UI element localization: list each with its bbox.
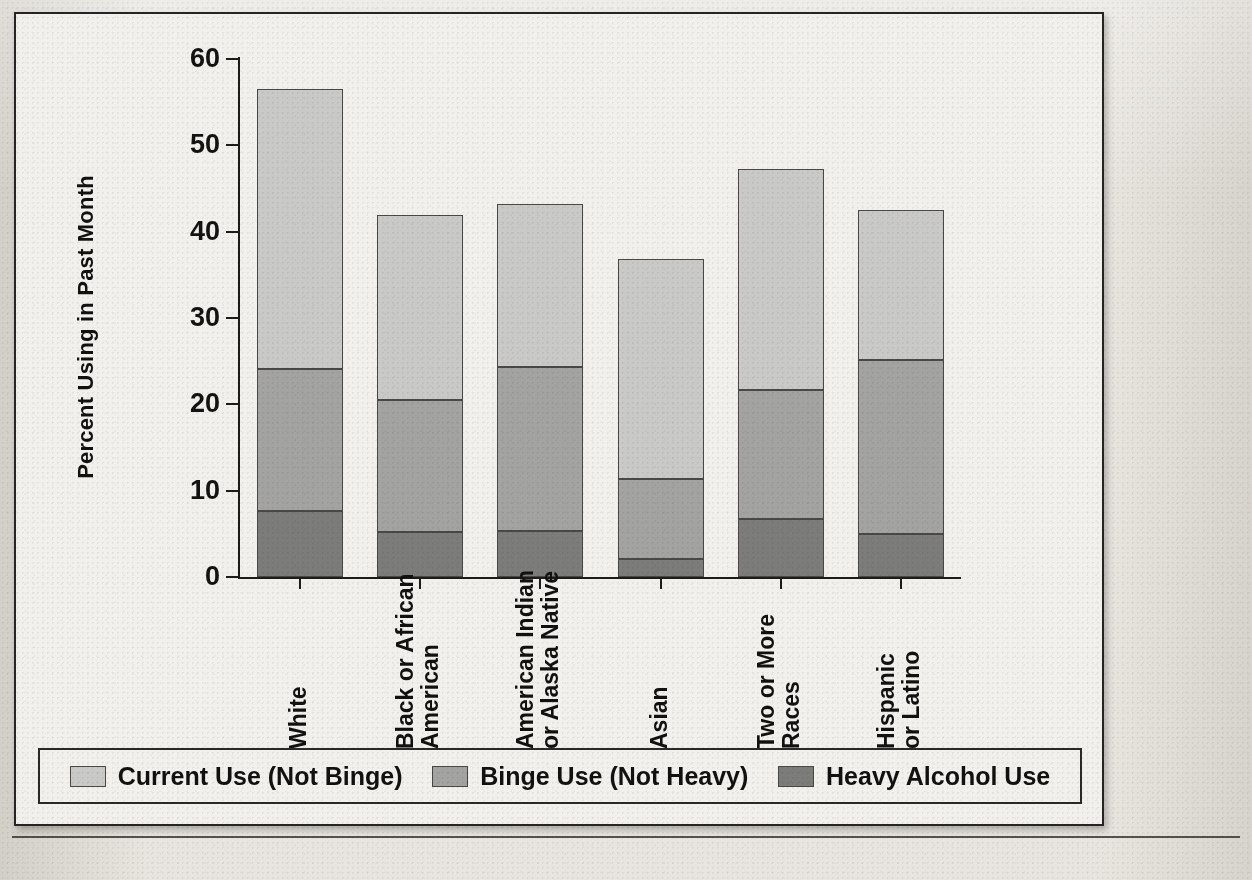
y-tick-20: [226, 403, 238, 405]
legend-swatch-heavy: [778, 766, 814, 787]
bar-segment-current: [738, 169, 824, 390]
figure-frame: 0102030405060 Percent Using in Past Mont…: [14, 12, 1104, 826]
category-label-line: American: [418, 573, 443, 749]
bar-segment-binge: [618, 479, 704, 559]
y-tick-label-10: 10: [166, 477, 220, 504]
bar-group: [738, 14, 824, 577]
category-label-line: or Alaska Native: [538, 570, 563, 749]
plot-area: 0102030405060 Percent Using in Past Mont…: [16, 14, 1102, 824]
x-tick-3: [660, 577, 662, 589]
bar-group: [257, 14, 343, 577]
legend-label: Current Use (Not Binge): [118, 762, 403, 791]
category-label: Two or MoreRaces: [754, 614, 804, 749]
category-label-line: Asian: [647, 686, 672, 749]
legend-swatch-current: [70, 766, 106, 787]
y-tick-40: [226, 231, 238, 233]
x-tick-5: [900, 577, 902, 589]
bar-segment-binge: [377, 400, 463, 532]
x-tick-4: [780, 577, 782, 589]
category-label-line: or Latino: [899, 651, 924, 749]
bar-group: [618, 14, 704, 577]
bar-segment-heavy: [738, 519, 824, 577]
y-tick-0: [226, 576, 238, 578]
y-tick-label-30: 30: [166, 304, 220, 331]
legend-item[interactable]: Binge Use (Not Heavy): [432, 762, 748, 791]
bar-segment-current: [257, 89, 343, 369]
category-label-line: American Indian: [513, 570, 538, 749]
y-tick-50: [226, 144, 238, 146]
category-label: White: [286, 686, 311, 749]
figure-inner: 0102030405060 Percent Using in Past Mont…: [16, 14, 1102, 824]
bar-segment-binge: [858, 360, 944, 534]
y-tick-label-20: 20: [166, 390, 220, 417]
bar-segment-heavy: [618, 559, 704, 577]
bar-group: [377, 14, 463, 577]
bar-segment-binge: [257, 369, 343, 511]
x-tick-0: [299, 577, 301, 589]
category-label: Hispanicor Latino: [874, 651, 924, 749]
bar-segment-binge: [738, 390, 824, 520]
category-label: Black or AfricanAmerican: [393, 573, 443, 749]
chart-legend: Current Use (Not Binge)Binge Use (Not He…: [38, 748, 1082, 804]
y-tick-10: [226, 490, 238, 492]
category-label-line: Two or More: [754, 614, 779, 749]
bar-segment-current: [618, 259, 704, 478]
legend-item[interactable]: Heavy Alcohol Use: [778, 762, 1050, 791]
y-axis-line: [238, 57, 240, 579]
y-tick-60: [226, 58, 238, 60]
x-axis-line: [238, 577, 961, 579]
legend-swatch-binge: [432, 766, 468, 787]
legend-label: Heavy Alcohol Use: [826, 762, 1050, 791]
bar-segment-heavy: [257, 511, 343, 577]
bar-segment-current: [858, 210, 944, 360]
bar-segment-heavy: [377, 532, 463, 577]
legend-item[interactable]: Current Use (Not Binge): [70, 762, 403, 791]
category-label-line: Races: [779, 614, 804, 749]
bar-group: [858, 14, 944, 577]
y-axis-title: Percent Using in Past Month: [73, 117, 99, 537]
bar-group: [497, 14, 583, 577]
page-bottom-rule: [12, 836, 1240, 838]
bar-segment-heavy: [858, 534, 944, 577]
y-tick-label-40: 40: [166, 218, 220, 245]
category-label: Asian: [647, 686, 672, 749]
bar-segment-current: [377, 215, 463, 400]
y-tick-label-0: 0: [166, 563, 220, 590]
category-label: American Indianor Alaska Native: [513, 570, 563, 749]
category-label-line: Black or African: [393, 573, 418, 749]
bar-segment-current: [497, 204, 583, 367]
y-tick-label-50: 50: [166, 131, 220, 158]
y-tick-30: [226, 317, 238, 319]
category-label-line: White: [286, 686, 311, 749]
legend-label: Binge Use (Not Heavy): [480, 762, 748, 791]
category-label-line: Hispanic: [874, 651, 899, 749]
bar-segment-binge: [497, 367, 583, 531]
y-tick-label-60: 60: [166, 45, 220, 72]
